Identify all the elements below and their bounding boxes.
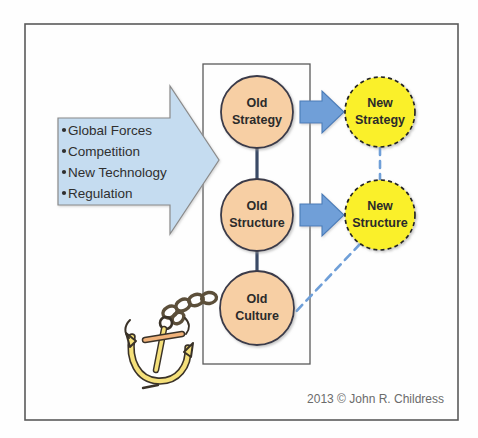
new-structure-circle[interactable] bbox=[345, 180, 415, 250]
old-structure-node[interactable]: Old Structure bbox=[221, 179, 293, 251]
new-structure-label-line1: New bbox=[367, 199, 393, 213]
bullet-dot-3 bbox=[62, 191, 66, 195]
bullet-item-3: Regulation bbox=[68, 186, 133, 201]
bullet-dot-1 bbox=[62, 149, 66, 153]
copyright-credit: 2013 © John R. Childress bbox=[307, 392, 444, 406]
new-structure-node[interactable]: New Structure bbox=[345, 180, 415, 250]
culture-change-diagram: Global Forces Competition New Technology… bbox=[0, 0, 478, 438]
old-culture-label-line2: Culture bbox=[235, 309, 279, 323]
old-strategy-circle[interactable] bbox=[221, 76, 293, 148]
old-culture-circle[interactable] bbox=[220, 271, 294, 345]
diagram-canvas: Global Forces Competition New Technology… bbox=[0, 0, 478, 438]
old-structure-circle[interactable] bbox=[221, 179, 293, 251]
old-structure-label-line1: Old bbox=[247, 199, 268, 213]
bullet-item-2: New Technology bbox=[68, 165, 167, 180]
old-strategy-label-line1: Old bbox=[247, 96, 268, 110]
new-strategy-node[interactable]: New Strategy bbox=[345, 77, 415, 147]
old-structure-label-line2: Structure bbox=[229, 216, 285, 230]
new-strategy-circle[interactable] bbox=[345, 77, 415, 147]
new-strategy-label-line1: New bbox=[367, 96, 393, 110]
new-strategy-label-line2: Strategy bbox=[355, 113, 405, 127]
new-structure-label-line2: Structure bbox=[352, 216, 408, 230]
old-strategy-label-line2: Strategy bbox=[232, 113, 282, 127]
bullet-dot-0 bbox=[62, 128, 66, 132]
old-culture-label-line1: Old bbox=[247, 292, 268, 306]
bullet-dot-2 bbox=[62, 170, 66, 174]
old-strategy-node[interactable]: Old Strategy bbox=[221, 76, 293, 148]
old-culture-node[interactable]: Old Culture bbox=[220, 271, 294, 345]
bullet-item-0: Global Forces bbox=[68, 123, 152, 138]
bullet-item-1: Competition bbox=[68, 144, 140, 159]
